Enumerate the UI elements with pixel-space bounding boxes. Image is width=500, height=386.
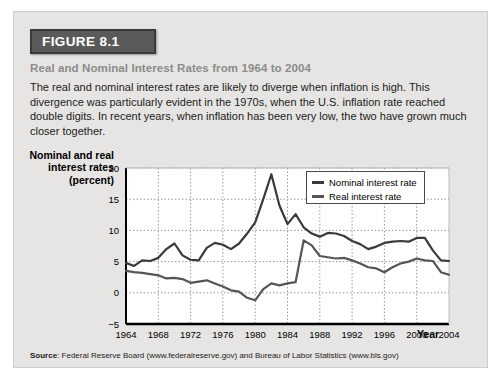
x-tick-label: 1980	[245, 329, 266, 340]
legend-swatch-nominal	[312, 181, 324, 184]
x-tick-label: 1972	[180, 329, 201, 340]
y-tick-label: 0	[114, 287, 119, 298]
legend-swatch-real	[312, 195, 324, 198]
x-tick-label: 1976	[212, 329, 233, 340]
figure-panel: FIGURE 8.1 Real and Nominal Interest Rat…	[13, 11, 488, 368]
legend-item-real: Real interest rate	[312, 189, 424, 203]
y-tick-label: 10	[108, 225, 119, 236]
x-tick-label: 1968	[148, 329, 169, 340]
y-tick-label: 5	[114, 256, 119, 267]
figure-description: The real and nominal interest rates are …	[30, 80, 470, 138]
chart-legend: Nominal interest rate Real interest rate	[306, 171, 425, 204]
legend-item-nominal: Nominal interest rate	[312, 175, 424, 189]
legend-label-nominal: Nominal interest rate	[329, 177, 417, 188]
figure-number-label: FIGURE 8.1	[32, 34, 120, 49]
x-axis-title: Year	[417, 328, 439, 340]
x-tick-label: 2004	[438, 329, 459, 340]
y-tick-label: 15	[108, 194, 119, 205]
source-text: : Federal Reserve Board (www.federalrese…	[57, 351, 398, 360]
x-tick-label: 1964	[115, 329, 136, 340]
x-tick-label: 1984	[277, 329, 298, 340]
interest-rates-line-chart: −505101520196419681972197619801984198819…	[14, 140, 489, 340]
y-tick-label: 20	[108, 163, 119, 174]
legend-label-real: Real interest rate	[329, 191, 401, 202]
source-label: Source	[30, 351, 57, 360]
figure-number-badge: FIGURE 8.1	[30, 29, 156, 54]
x-tick-label: 1992	[342, 329, 363, 340]
x-tick-label: 1988	[309, 329, 330, 340]
x-tick-label: 1996	[374, 329, 395, 340]
source-note: Source: Federal Reserve Board (www.feder…	[30, 351, 399, 360]
chart-container: Nominal and real interest rates (percent…	[14, 140, 489, 340]
figure-subtitle: Real and Nominal Interest Rates from 196…	[30, 62, 460, 74]
y-tick-label: −5	[108, 319, 119, 330]
